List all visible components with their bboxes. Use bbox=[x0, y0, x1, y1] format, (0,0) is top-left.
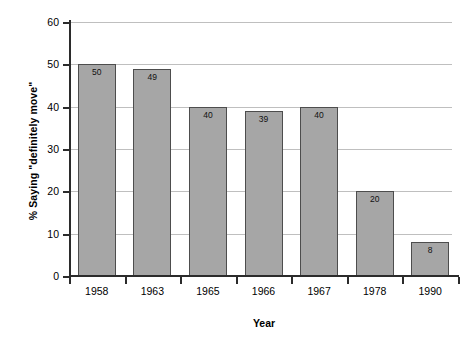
bar-value-label: 39 bbox=[246, 115, 282, 124]
x-axis-tick-mark bbox=[458, 277, 460, 284]
gridline bbox=[69, 107, 452, 108]
y-axis-tick-label: 0 bbox=[33, 271, 59, 282]
gridline bbox=[69, 64, 452, 65]
bar-value-label: 49 bbox=[134, 73, 170, 82]
bar: 40 bbox=[300, 107, 338, 276]
x-axis-tick-mark bbox=[180, 277, 182, 284]
bar-value-label: 50 bbox=[79, 68, 115, 77]
x-axis-tick-mark bbox=[347, 277, 349, 284]
bar: 39 bbox=[245, 111, 283, 276]
x-axis-tick-label: 1963 bbox=[122, 286, 182, 297]
bar: 20 bbox=[356, 191, 394, 276]
y-axis-tick-label: 10 bbox=[33, 229, 59, 240]
x-axis-tick-label: 1967 bbox=[289, 286, 349, 297]
x-axis-line bbox=[69, 275, 459, 277]
y-axis-tick-label: 40 bbox=[33, 102, 59, 113]
bar-value-label: 40 bbox=[301, 111, 337, 120]
x-axis-tick-mark bbox=[125, 277, 127, 284]
y-axis-tick-label: 60 bbox=[33, 17, 59, 28]
bar-value-label: 20 bbox=[357, 195, 393, 204]
x-axis-tick-mark bbox=[291, 277, 293, 284]
y-axis-line bbox=[69, 20, 71, 278]
y-axis-tick-label: 30 bbox=[33, 144, 59, 155]
x-axis-tick-label: 1990 bbox=[400, 286, 460, 297]
bar: 8 bbox=[411, 242, 449, 276]
bar-value-label: 8 bbox=[412, 246, 448, 255]
bar-chart-figure: % Saying "definitely move" 6050403020100… bbox=[0, 0, 472, 341]
x-axis-title: Year bbox=[69, 317, 459, 329]
x-axis-tick-label: 1958 bbox=[67, 286, 127, 297]
x-axis-tick-label: 1966 bbox=[234, 286, 294, 297]
bar: 49 bbox=[133, 69, 171, 276]
y-axis-tick-label: 20 bbox=[33, 186, 59, 197]
x-axis-tick-mark bbox=[236, 277, 238, 284]
x-axis-tick-mark bbox=[69, 277, 71, 284]
gridline bbox=[69, 22, 452, 23]
plot-area: 5049403940208 bbox=[69, 22, 458, 276]
y-axis-tick-label: 50 bbox=[33, 59, 59, 70]
x-axis-tick-label: 1978 bbox=[345, 286, 405, 297]
bar-value-label: 40 bbox=[190, 111, 226, 120]
x-axis-tick-label: 1965 bbox=[178, 286, 238, 297]
bar: 50 bbox=[78, 64, 116, 276]
bar: 40 bbox=[189, 107, 227, 276]
x-axis-tick-mark bbox=[402, 277, 404, 284]
